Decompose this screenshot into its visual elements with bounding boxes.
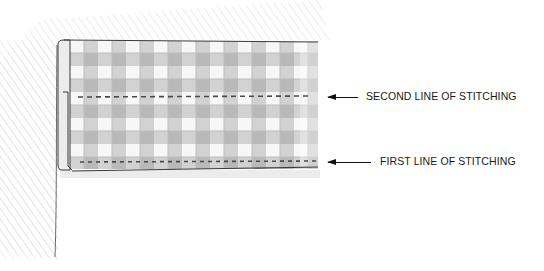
callout-first-stitching: FIRST LINE OF STITCHING <box>380 155 516 167</box>
hem-illustration <box>0 0 544 271</box>
fabric-hem <box>58 40 320 171</box>
callout-second-stitching: SECOND LINE OF STITCHING <box>366 90 517 102</box>
arrow-icon <box>328 97 358 98</box>
arrow-icon <box>328 162 371 163</box>
